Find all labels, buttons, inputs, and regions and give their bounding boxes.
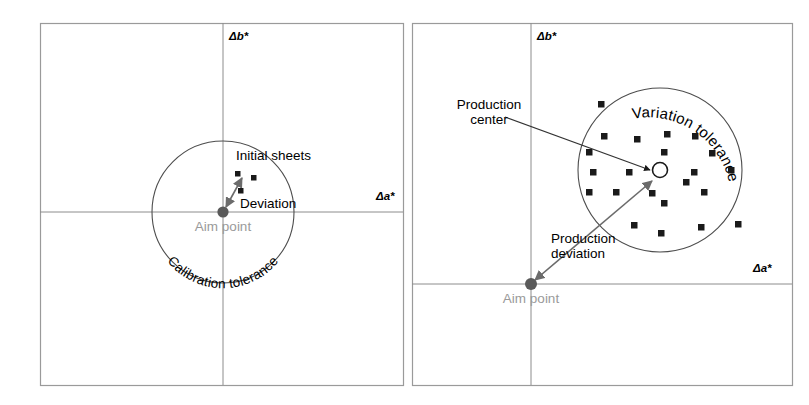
sample-marker	[649, 190, 656, 197]
aim-point-marker-right	[525, 278, 537, 290]
production-center-label-line1: Production	[457, 97, 522, 112]
sample-marker	[251, 175, 257, 181]
sample-marker	[661, 149, 668, 156]
aim-point-marker-left	[217, 206, 228, 217]
aim-point-label-left: Aim point	[195, 219, 252, 234]
x-axis-label-right: Δa*	[752, 262, 772, 274]
panel-frame-right	[413, 24, 793, 386]
deviation-label: Deviation	[240, 196, 296, 211]
production-panel: Δb* Δa* Variation tolerance	[412, 23, 793, 386]
calibration-panel: Δb* Δa* Calibration tolerance Initial sh…	[40, 23, 404, 386]
sample-marker	[238, 188, 244, 194]
sample-marker	[701, 189, 708, 196]
production-deviation-label-line1: Production	[551, 231, 616, 246]
sample-marker	[691, 169, 698, 176]
aim-point-label-right: Aim point	[503, 291, 560, 306]
sample-marker	[590, 169, 597, 176]
sample-marker	[698, 224, 705, 231]
sample-marker	[626, 169, 633, 176]
sample-marker	[586, 189, 593, 196]
tolerance-diagram-figure: Δb* Δa* Calibration tolerance Initial sh…	[0, 0, 809, 405]
sample-marker	[601, 133, 608, 140]
sample-marker	[613, 189, 620, 196]
y-axis-label-left: Δb*	[228, 30, 249, 42]
initial-sheets-label: Initial sheets	[236, 148, 311, 163]
production-deviation-label-line2: deviation	[551, 246, 605, 261]
sample-marker	[664, 131, 671, 138]
sample-marker	[586, 149, 593, 156]
panel-frame-left	[41, 24, 404, 386]
sample-marker	[683, 179, 690, 186]
sample-marker	[631, 222, 638, 229]
sample-marker	[658, 230, 665, 237]
sample-marker	[692, 133, 699, 140]
sample-marker	[661, 200, 668, 207]
sample-marker	[728, 167, 735, 174]
x-axis-label-left: Δa*	[375, 190, 395, 202]
production-center-marker	[653, 163, 668, 178]
sample-marker	[735, 221, 742, 228]
y-axis-label-right: Δb*	[536, 30, 557, 42]
sample-marker	[634, 136, 641, 143]
sample-marker	[598, 101, 605, 108]
production-center-label-line2: center	[470, 112, 508, 127]
diagram-canvas: Δb* Δa* Calibration tolerance Initial sh…	[0, 0, 809, 405]
sample-marker	[709, 150, 716, 157]
sample-marker	[235, 171, 241, 177]
